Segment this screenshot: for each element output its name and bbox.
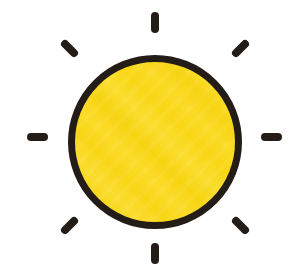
sun-illustration: [0, 0, 294, 275]
icon-canvas: Sun A hand-drawn sun: thick dark outline…: [0, 0, 294, 275]
